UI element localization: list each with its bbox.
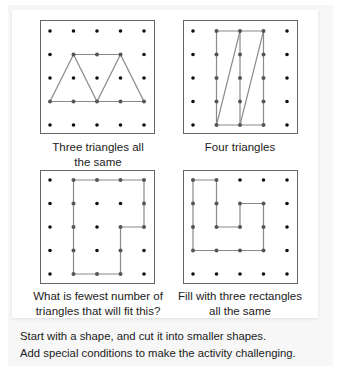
peg-dot — [142, 29, 146, 33]
peg-dot — [95, 202, 99, 206]
peg-dot — [262, 249, 266, 253]
peg-dot — [262, 100, 266, 104]
peg-dot — [72, 53, 76, 57]
peg-dot — [262, 29, 266, 33]
peg-dot — [142, 249, 146, 253]
peg-dot — [72, 272, 76, 276]
caption-line: the same — [23, 155, 173, 170]
instructions-text: Start with a shape, and cut it into smal… — [20, 328, 296, 362]
peg-dot — [191, 53, 195, 57]
peg-dot — [238, 272, 242, 276]
peg-dot — [285, 76, 289, 80]
peg-dot — [119, 225, 123, 229]
peg-dot — [95, 29, 99, 33]
peg-dot — [142, 53, 146, 57]
peg-dot — [285, 225, 289, 229]
peg-dot — [119, 53, 123, 57]
peg-dot — [95, 249, 99, 253]
peg-dot — [72, 225, 76, 229]
peg-dot — [142, 272, 146, 276]
peg-dot — [215, 272, 219, 276]
peg-dot — [95, 100, 99, 104]
peg-dot — [285, 202, 289, 206]
peg-dot — [262, 123, 266, 127]
peg-dot — [215, 53, 219, 57]
peg-dot — [262, 272, 266, 276]
peg-dot — [72, 100, 76, 104]
peg-dot — [72, 178, 76, 182]
peg-dot — [191, 100, 195, 104]
peg-dot — [191, 76, 195, 80]
caption-line: What is fewest number of — [23, 289, 173, 304]
peg-dot — [262, 225, 266, 229]
caption-line: Three triangles all — [23, 140, 173, 155]
peg-dot — [238, 76, 242, 80]
peg-dot — [238, 249, 242, 253]
peg-dot — [238, 123, 242, 127]
peg-dot — [48, 76, 52, 80]
peg-dot — [142, 100, 146, 104]
peg-dot — [119, 178, 123, 182]
peg-dot — [191, 272, 195, 276]
peg-dot — [285, 29, 289, 33]
peg-dot — [119, 29, 123, 33]
peg-dot — [48, 29, 52, 33]
peg-dot — [48, 202, 52, 206]
instruction-line-1: Start with a shape, and cut it into smal… — [20, 328, 296, 345]
peg-dot — [262, 178, 266, 182]
peg-dot — [191, 202, 195, 206]
peg-dot — [191, 123, 195, 127]
peg-dot — [142, 225, 146, 229]
peg-dot — [262, 53, 266, 57]
peg-dot — [72, 123, 76, 127]
peg-dot — [285, 100, 289, 104]
peg-dot — [238, 100, 242, 104]
peg-dot — [119, 202, 123, 206]
peg-dot — [142, 123, 146, 127]
caption-three-rectangles: Fill with three rectangles all the same — [165, 289, 315, 319]
peg-dot — [285, 178, 289, 182]
caption-line: Fill with three rectangles — [165, 289, 315, 304]
peg-dot — [142, 76, 146, 80]
peg-dot — [238, 178, 242, 182]
geoboard-fewest-triangles — [41, 171, 155, 284]
peg-dot — [238, 225, 242, 229]
peg-dot — [95, 53, 99, 57]
peg-dot — [119, 100, 123, 104]
peg-dot — [48, 53, 52, 57]
peg-dot — [95, 76, 99, 80]
instruction-line-2: Add special conditions to make the activ… — [20, 345, 296, 362]
peg-dot — [215, 225, 219, 229]
peg-dot — [215, 29, 219, 33]
geoboard-three-triangles — [41, 21, 155, 134]
peg-dot — [142, 202, 146, 206]
peg-dot — [285, 123, 289, 127]
peg-dot — [215, 123, 219, 127]
peg-dot — [48, 272, 52, 276]
peg-dot — [119, 76, 123, 80]
peg-dot — [95, 123, 99, 127]
peg-dot — [142, 178, 146, 182]
peg-dot — [72, 29, 76, 33]
peg-dot — [48, 123, 52, 127]
peg-dot — [215, 178, 219, 182]
peg-dot — [215, 202, 219, 206]
peg-dot — [119, 272, 123, 276]
peg-dot — [95, 272, 99, 276]
peg-dot — [95, 178, 99, 182]
caption-line: all the same — [165, 304, 315, 319]
peg-dot — [72, 76, 76, 80]
peg-dot — [238, 202, 242, 206]
peg-dot — [119, 249, 123, 253]
caption-four-triangles: Four triangles — [165, 140, 315, 155]
caption-fewest-triangles: What is fewest number of triangles that … — [23, 289, 173, 319]
caption-line: triangles that will fit this? — [23, 304, 173, 319]
peg-dot — [238, 29, 242, 33]
peg-dot — [48, 178, 52, 182]
peg-dot — [72, 249, 76, 253]
peg-dot — [262, 76, 266, 80]
peg-dot — [285, 249, 289, 253]
caption-line: Four triangles — [165, 140, 315, 155]
peg-dot — [119, 123, 123, 127]
peg-dot — [191, 178, 195, 182]
